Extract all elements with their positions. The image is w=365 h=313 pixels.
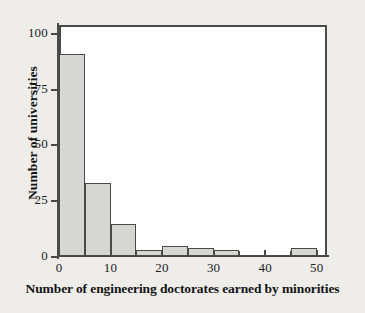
y-axis-tick [51,256,58,258]
x-axis-tick [58,250,60,257]
x-axis-minor-tick [187,251,189,257]
y-axis-tick [51,144,58,146]
x-axis-tick [316,250,318,257]
y-axis-line [57,23,59,259]
x-axis-tick [213,250,215,257]
x-axis-tick-label: 30 [194,260,234,276]
x-axis-tick [161,250,163,257]
x-axis-tick-label: 50 [297,260,337,276]
x-axis-tick-label: 10 [91,260,131,276]
x-axis-title: Number of engineering doctorates earned … [0,281,365,297]
x-axis-tick [264,250,266,257]
x-axis-minor-tick [238,251,240,257]
x-axis-minor-tick [290,251,292,257]
x-axis-line [57,255,329,257]
y-axis-tick [51,33,58,35]
x-axis-tick [110,250,112,257]
x-axis-tick-label: 40 [245,260,285,276]
y-axis-tick [51,200,58,202]
x-axis-tick-label: 20 [142,260,182,276]
x-axis-minor-tick [84,251,86,257]
x-axis-minor-tick [135,251,137,257]
y-axis-tick [51,89,58,91]
plot-area [59,25,327,257]
histogram-figure: 0255075100 01020304050 Number of univers… [0,0,365,313]
y-axis-title: Number of universities [25,38,41,228]
x-axis-tick-label: 0 [39,260,79,276]
